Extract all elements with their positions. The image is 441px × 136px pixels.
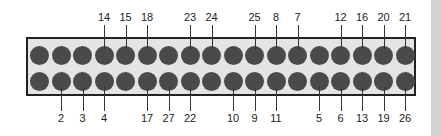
- bottom-lead-line: [147, 87, 148, 111]
- bottom-pin-label: 26: [393, 112, 417, 124]
- bottom-pin-label: 2: [49, 112, 73, 124]
- top-lead-line: [405, 25, 406, 49]
- bottom-lead-line: [276, 87, 277, 111]
- top-lead-line: [276, 25, 277, 49]
- bottom-pin-label: 6: [329, 112, 353, 124]
- top-pin: [159, 46, 178, 65]
- bottom-pin: [202, 72, 221, 91]
- top-lead-line: [362, 25, 363, 49]
- bottom-lead-line: [341, 87, 342, 111]
- bottom-pin-label: 19: [372, 112, 396, 124]
- bottom-pin-label: 5: [307, 112, 331, 124]
- top-lead-line: [298, 25, 299, 49]
- bottom-pin: [116, 72, 135, 91]
- bottom-pin: [30, 72, 49, 91]
- top-pin-label: 23: [178, 11, 202, 23]
- top-pin-label: 12: [329, 11, 353, 23]
- top-lead-line: [147, 25, 148, 49]
- top-lead-line: [212, 25, 213, 49]
- bottom-pin-label: 13: [350, 112, 374, 124]
- top-pin-label: 8: [264, 11, 288, 23]
- bottom-pin-label: 17: [135, 112, 159, 124]
- top-pin: [52, 46, 71, 65]
- bottom-pin-label: 10: [221, 112, 245, 124]
- bottom-lead-line: [190, 87, 191, 111]
- top-pin-label: 16: [350, 11, 374, 23]
- top-pin: [73, 46, 92, 65]
- bottom-pin-label: 11: [264, 112, 288, 124]
- top-pin: [30, 46, 49, 65]
- bottom-lead-line: [61, 87, 62, 111]
- bottom-lead-line: [233, 87, 234, 111]
- top-lead-line: [384, 25, 385, 49]
- bottom-lead-line: [405, 87, 406, 111]
- bottom-lead-line: [362, 87, 363, 111]
- bottom-pin-label: 22: [178, 112, 202, 124]
- bottom-pin-label: 27: [157, 112, 181, 124]
- bottom-lead-line: [255, 87, 256, 111]
- top-pin-label: 20: [372, 11, 396, 23]
- top-lead-line: [104, 25, 105, 49]
- top-pin-label: 15: [114, 11, 138, 23]
- top-pin-label: 21: [393, 11, 417, 23]
- bottom-pin-label: 3: [71, 112, 95, 124]
- side-strip: [431, 0, 441, 136]
- bottom-lead-line: [83, 87, 84, 111]
- top-pin: [224, 46, 243, 65]
- bottom-lead-line: [104, 87, 105, 111]
- top-pin-label: 25: [243, 11, 267, 23]
- top-pin-label: 18: [135, 11, 159, 23]
- bottom-pin: [288, 72, 307, 91]
- top-pin-label: 14: [92, 11, 116, 23]
- top-lead-line: [341, 25, 342, 49]
- bottom-lead-line: [384, 87, 385, 111]
- top-lead-line: [126, 25, 127, 49]
- top-pin-label: 7: [286, 11, 310, 23]
- top-lead-line: [255, 25, 256, 49]
- bottom-lead-line: [319, 87, 320, 111]
- top-pin-label: 24: [200, 11, 224, 23]
- bottom-lead-line: [169, 87, 170, 111]
- top-pin: [310, 46, 329, 65]
- top-lead-line: [190, 25, 191, 49]
- bottom-pin-label: 4: [92, 112, 116, 124]
- bottom-pin-label: 9: [243, 112, 267, 124]
